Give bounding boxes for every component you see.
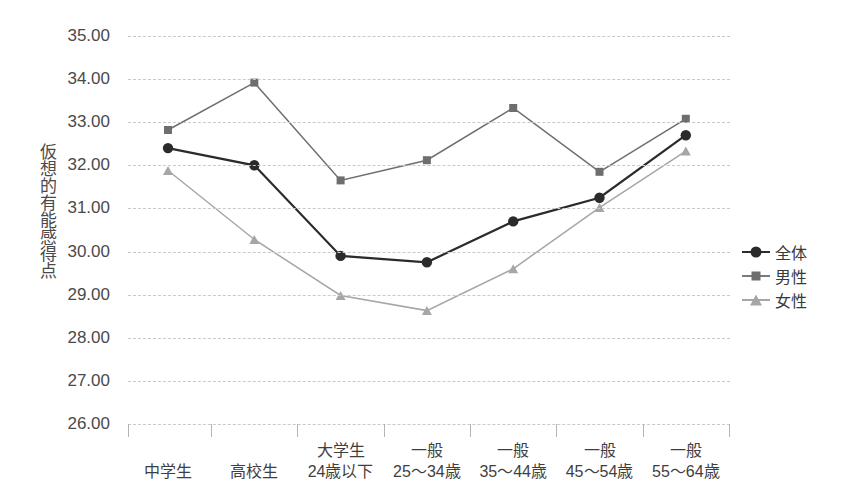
data-point-circle [508, 216, 518, 226]
data-point-circle [681, 130, 691, 140]
gridline [128, 122, 730, 123]
data-point-circle [422, 257, 432, 267]
x-axis-category-label: 大学生24歳以下 [308, 440, 374, 482]
x-axis-tick-mark [643, 424, 644, 437]
gridline [128, 208, 730, 209]
data-point-square [596, 168, 604, 176]
square-marker-icon [742, 269, 770, 283]
gridline [128, 381, 730, 382]
y-axis-tick-labels: 35.0034.0033.0032.0031.0030.0029.0028.00… [0, 0, 120, 499]
y-axis-tick-label: 31.00 [0, 198, 120, 218]
y-axis-tick-label: 33.00 [0, 112, 120, 132]
legend-label-josei: 女性 [775, 288, 807, 312]
y-axis-tick-label: 28.00 [0, 328, 120, 348]
triangle-marker-icon [742, 293, 770, 307]
y-axis-tick-label: 26.00 [0, 414, 120, 434]
x-axis-category-label: 一般25〜34歳 [393, 440, 461, 482]
y-axis-tick-label: 34.00 [0, 69, 120, 89]
circle-marker-icon [742, 245, 770, 259]
x-axis-tick-mark [297, 424, 298, 437]
gridline [128, 295, 730, 296]
x-axis-category-label: 一般45〜54歳 [566, 440, 634, 482]
legend-label-zentai: 全体 [775, 240, 807, 264]
data-point-triangle [163, 166, 173, 175]
y-axis-tick-label: 27.00 [0, 371, 120, 391]
data-point-circle [594, 193, 604, 203]
y-axis-tick-label: 30.00 [0, 242, 120, 262]
x-axis-tick-mark [211, 424, 212, 437]
legend-item-zentai[interactable]: 全体 [742, 240, 837, 264]
data-point-square [423, 156, 431, 164]
x-axis-category-label: 中学生 [144, 461, 192, 482]
x-axis-tick-mark [128, 424, 129, 437]
gridline [128, 79, 730, 80]
x-axis-category-label: 一般55〜64歳 [652, 440, 720, 482]
plot-area [128, 36, 730, 424]
series-line [168, 135, 686, 262]
data-point-square [337, 176, 345, 184]
data-point-circle [163, 143, 173, 153]
legend-label-dansei: 男性 [775, 264, 807, 288]
data-point-square [509, 104, 517, 112]
x-axis-category-labels: 中学生高校生大学生24歳以下一般25〜34歳一般35〜44歳一般45〜54歳一般… [128, 440, 730, 492]
gridline [128, 338, 730, 339]
data-point-triangle [681, 147, 691, 156]
gridline [128, 424, 730, 425]
y-axis-tick-label: 29.00 [0, 285, 120, 305]
x-axis-tick-mark [470, 424, 471, 437]
series-lines [128, 36, 730, 424]
gridline [128, 36, 730, 37]
y-axis-tick-label: 32.00 [0, 155, 120, 175]
series-line [168, 151, 686, 311]
x-axis-tick-mark [384, 424, 385, 437]
x-axis-tick-mark [729, 424, 730, 437]
x-axis-category-label: 高校生 [230, 461, 278, 482]
gridline [128, 252, 730, 253]
line-chart: 仮想的有能感得点 35.0034.0033.0032.0031.0030.002… [0, 0, 841, 499]
data-point-square [164, 126, 172, 134]
x-axis-category-label: 一般35〜44歳 [479, 440, 547, 482]
legend-item-dansei[interactable]: 男性 [742, 264, 837, 288]
gridline [128, 165, 730, 166]
y-axis-tick-label: 35.00 [0, 26, 120, 46]
chart-legend: 全体 男性 女性 [742, 240, 837, 312]
legend-item-josei[interactable]: 女性 [742, 288, 837, 312]
x-axis-tick-mark [556, 424, 557, 437]
